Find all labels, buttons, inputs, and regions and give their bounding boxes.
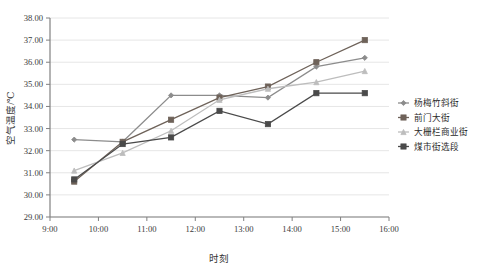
x-axis-title: 时刻 bbox=[209, 253, 229, 264]
y-tick-label: 29.00 bbox=[24, 212, 43, 222]
x-tick-label: 9:00 bbox=[42, 224, 57, 234]
y-tick-label: 38.00 bbox=[24, 13, 43, 23]
data-point-marker bbox=[168, 117, 173, 122]
x-tick-label: 10:00 bbox=[89, 224, 109, 234]
chart-canvas: 29.0030.0031.0032.0033.0034.0035.0036.00… bbox=[0, 0, 480, 269]
x-tick-label: 11:00 bbox=[137, 224, 156, 234]
y-tick-label: 32.00 bbox=[24, 146, 43, 156]
y-axis-title: 空气温度/℃ bbox=[5, 91, 16, 145]
data-point-marker bbox=[314, 91, 319, 96]
data-point-marker bbox=[217, 108, 222, 113]
x-tick-label: 15:00 bbox=[331, 224, 351, 234]
data-point-marker bbox=[72, 177, 77, 182]
legend-label: 大栅栏商业街 bbox=[414, 126, 468, 137]
y-tick-label: 34.00 bbox=[24, 101, 43, 111]
y-tick-label: 35.00 bbox=[24, 79, 43, 89]
data-point-marker bbox=[120, 141, 125, 146]
legend-label: 煤市街选段 bbox=[414, 141, 459, 152]
x-tick-label: 13:00 bbox=[234, 224, 254, 234]
data-point-marker bbox=[401, 144, 406, 149]
data-point-marker bbox=[362, 38, 367, 43]
x-tick-label: 14:00 bbox=[282, 224, 302, 234]
legend-label: 杨梅竹斜街 bbox=[414, 97, 459, 108]
x-tick-label: 16:00 bbox=[379, 224, 399, 234]
data-point-marker bbox=[314, 60, 319, 65]
legend-label: 前门大街 bbox=[414, 112, 450, 123]
y-tick-label: 31.00 bbox=[24, 168, 43, 178]
line-chart: 29.0030.0031.0032.0033.0034.0035.0036.00… bbox=[0, 0, 480, 269]
y-tick-label: 33.00 bbox=[24, 124, 43, 134]
data-point-marker bbox=[265, 122, 270, 127]
y-tick-label: 36.00 bbox=[24, 57, 43, 67]
y-tick-label: 30.00 bbox=[24, 190, 43, 200]
y-tick-label: 37.00 bbox=[24, 35, 43, 45]
data-point-marker bbox=[401, 115, 406, 120]
data-point-marker bbox=[362, 91, 367, 96]
x-tick-label: 12:00 bbox=[185, 224, 205, 234]
data-point-marker bbox=[168, 135, 173, 140]
